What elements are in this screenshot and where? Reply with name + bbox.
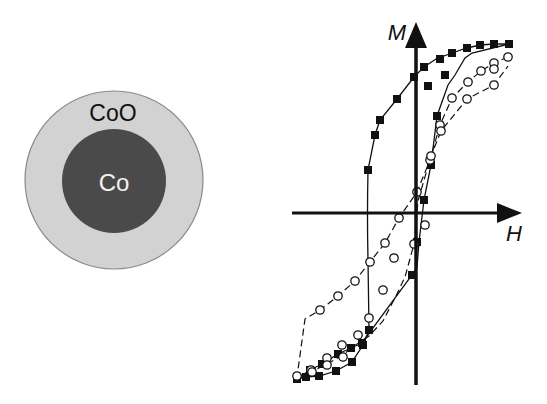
figure: CoO Co <box>0 0 547 404</box>
m-axis-arrowhead-icon <box>405 22 427 48</box>
shell-label: CoO <box>89 100 136 126</box>
h-axis-arrowhead-icon <box>497 203 522 223</box>
axes: H M <box>292 20 522 385</box>
hysteresis-plot: H M <box>292 20 522 385</box>
core-label: Co <box>99 169 130 196</box>
circles-ascending-curve <box>297 66 508 377</box>
open-circle-markers <box>293 53 512 380</box>
core-shell-particle: CoO Co <box>25 91 203 269</box>
m-axis-label: M <box>388 20 407 45</box>
h-axis-label: H <box>506 221 522 246</box>
